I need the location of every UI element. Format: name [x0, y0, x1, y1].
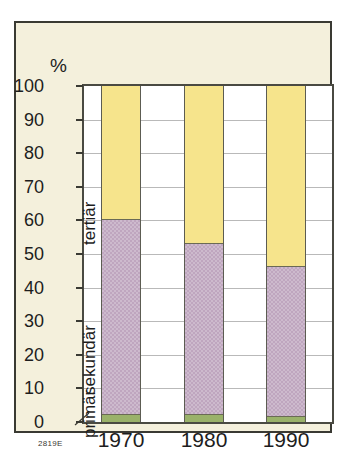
- series-label-sekundär: sekundär: [81, 325, 98, 395]
- bar-1990[interactable]: [266, 86, 306, 422]
- bar-segment-sekundär-1980[interactable]: [185, 244, 223, 415]
- y-tick-label: 60: [0, 211, 44, 229]
- bar-segment-primär-1970[interactable]: [102, 415, 140, 422]
- y-tick-mark: [76, 85, 83, 87]
- x-tick-label-1980: 1980: [159, 429, 249, 450]
- y-tick-mark: [76, 253, 83, 255]
- y-tick-label: 40: [0, 279, 44, 297]
- bar-segment-sekundär-1990[interactable]: [267, 267, 305, 417]
- plot-inner: [84, 86, 332, 422]
- y-tick-mark: [76, 287, 83, 289]
- y-tick-label: 80: [0, 144, 44, 162]
- y-tick-label: 20: [0, 346, 44, 364]
- x-tick-label-1990: 1990: [241, 429, 331, 450]
- figure-id-code: 2819E: [38, 440, 63, 448]
- series-label-tertiär: tertiär: [81, 202, 98, 245]
- y-tick-mark: [76, 152, 83, 154]
- bar-segment-tertiär-1970[interactable]: [102, 86, 140, 220]
- y-tick-mark: [76, 186, 83, 188]
- bar-1980[interactable]: [184, 86, 224, 422]
- y-axis-unit-label: %: [50, 56, 67, 75]
- chart-panel: % 0102030405060708090100 tertiärsekundär…: [14, 21, 332, 433]
- chart-figure: % 0102030405060708090100 tertiärsekundär…: [0, 0, 348, 451]
- plot-area: [82, 84, 334, 424]
- y-tick-label: 70: [0, 178, 44, 196]
- y-tick-label: 0: [0, 413, 44, 431]
- bar-1970[interactable]: [101, 86, 141, 422]
- bar-segment-primär-1990[interactable]: [267, 417, 305, 422]
- y-tick-label: 50: [0, 245, 44, 263]
- bar-segment-tertiär-1980[interactable]: [185, 86, 223, 244]
- y-tick-label: 30: [0, 312, 44, 330]
- bar-segment-sekundär-1970[interactable]: [102, 220, 140, 415]
- y-tick-label: 100: [0, 77, 44, 95]
- y-tick-label: 90: [0, 111, 44, 129]
- y-tick-mark: [76, 119, 83, 121]
- bar-segment-tertiär-1990[interactable]: [267, 86, 305, 267]
- primary-pointer-line: [74, 412, 90, 426]
- bar-segment-primär-1980[interactable]: [185, 415, 223, 422]
- y-tick-mark: [76, 320, 83, 322]
- x-tick-label-1970: 1970: [76, 429, 166, 450]
- y-tick-label: 10: [0, 379, 44, 397]
